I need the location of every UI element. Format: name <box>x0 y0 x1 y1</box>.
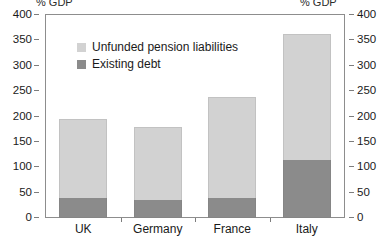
y-tick-mark-right-50 <box>349 192 354 193</box>
bar-segment-unfunded-pension-germany <box>134 127 182 201</box>
bar-segment-existing-debt-italy <box>283 160 331 218</box>
legend-label-2: Existing debt <box>92 58 161 71</box>
y-axis-right: 400350300250200150100500 <box>348 14 383 218</box>
chart-legend: Unfunded pension liabilitiesExisting deb… <box>77 40 238 74</box>
y-tick-label-left-50: 50 <box>19 186 32 198</box>
y-tick-mark-right-350 <box>349 39 354 40</box>
y-tick-label-left-150: 150 <box>13 135 32 147</box>
y-tick-mark-left-250 <box>34 90 39 91</box>
y-tick-label-right-50: 50 <box>357 186 370 198</box>
x-axis-label-germany: Germany <box>121 222 196 237</box>
bar-segment-unfunded-pension-italy <box>283 34 331 159</box>
y-tick-label-left-300: 300 <box>13 59 32 71</box>
y-axis-left: 400350300250200150100500 <box>0 14 40 218</box>
y-tick-label-right-250: 250 <box>357 84 376 96</box>
bar-uk <box>59 119 107 218</box>
dark-gray-swatch <box>77 60 86 69</box>
y-tick-mark-right-400 <box>349 14 354 15</box>
legend-item-1: Unfunded pension liabilities <box>77 40 238 55</box>
bar-segment-existing-debt-france <box>208 198 256 218</box>
bar-germany <box>134 127 182 218</box>
y-tick-label-right-200: 200 <box>357 110 376 122</box>
legend-label-1: Unfunded pension liabilities <box>92 41 238 54</box>
y-tick-mark-left-0 <box>34 217 39 218</box>
bar-france <box>208 97 256 218</box>
y-tick-mark-left-150 <box>34 141 39 142</box>
y-tick-label-left-200: 200 <box>13 110 32 122</box>
bar-segment-unfunded-pension-uk <box>59 119 107 198</box>
y-tick-label-right-150: 150 <box>357 135 376 147</box>
y-tick-label-left-100: 100 <box>13 160 32 172</box>
bar-segment-existing-debt-uk <box>59 198 107 218</box>
y-tick-label-right-350: 350 <box>357 33 376 45</box>
y-tick-label-right-300: 300 <box>357 59 376 71</box>
light-gray-swatch <box>77 43 86 52</box>
y-tick-label-right-0: 0 <box>357 211 363 223</box>
left-axis-unit-label: % GDP <box>36 0 73 8</box>
y-tick-mark-right-200 <box>349 116 354 117</box>
stacked-bar-chart: % GDP % GDP 400350300250200150100500 400… <box>0 0 383 249</box>
y-tick-mark-left-350 <box>34 39 39 40</box>
y-tick-mark-left-200 <box>34 116 39 117</box>
x-axis-categories: UKGermanyFranceItaly <box>46 222 344 242</box>
y-tick-label-left-0: 0 <box>26 211 32 223</box>
bar-segment-existing-debt-germany <box>134 200 182 218</box>
y-tick-mark-left-50 <box>34 192 39 193</box>
x-axis-label-italy: Italy <box>270 222 345 237</box>
y-tick-mark-right-0 <box>349 217 354 218</box>
y-tick-mark-right-100 <box>349 166 354 167</box>
right-axis-unit-label: % GDP <box>300 0 337 8</box>
y-tick-mark-left-400 <box>34 14 39 15</box>
y-tick-label-left-250: 250 <box>13 84 32 96</box>
bar-segment-unfunded-pension-france <box>208 97 256 197</box>
y-tick-mark-left-300 <box>34 65 39 66</box>
x-axis-label-france: France <box>195 222 270 237</box>
y-tick-label-left-350: 350 <box>13 33 32 45</box>
y-tick-mark-right-250 <box>349 90 354 91</box>
y-tick-mark-right-150 <box>349 141 354 142</box>
y-tick-mark-left-100 <box>34 166 39 167</box>
y-tick-label-left-400: 400 <box>13 8 32 20</box>
x-axis-label-uk: UK <box>46 222 121 237</box>
y-tick-mark-right-300 <box>349 65 354 66</box>
bar-italy <box>283 34 331 218</box>
legend-item-2: Existing debt <box>77 57 238 72</box>
y-tick-label-right-400: 400 <box>357 8 376 20</box>
y-tick-label-right-100: 100 <box>357 160 376 172</box>
